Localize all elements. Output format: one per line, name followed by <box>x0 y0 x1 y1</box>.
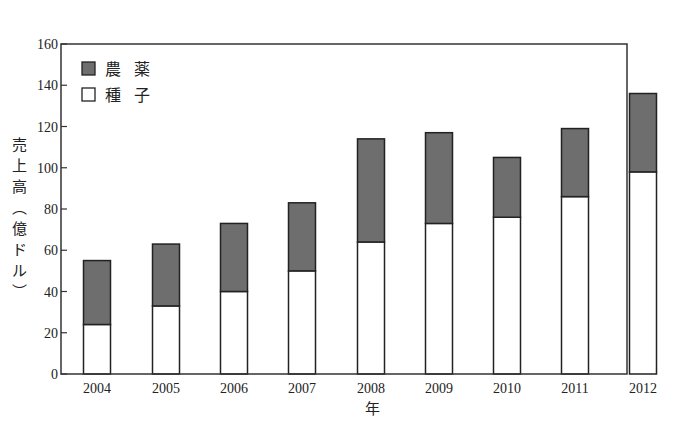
legend: 農 薬種 子 <box>82 60 154 105</box>
bar-2011 <box>562 129 589 374</box>
x-axis-title: 年 <box>365 400 380 418</box>
bar-segment-農薬 <box>221 223 248 291</box>
y-axis-title-char: 売 <box>12 136 27 154</box>
bar-segment-農薬 <box>562 129 589 197</box>
bar-segment-種子 <box>426 223 453 374</box>
x-tick-label: 2012 <box>629 381 657 396</box>
x-tick-label: 2004 <box>83 381 111 396</box>
bar-segment-種子 <box>289 271 316 374</box>
bar-2012 <box>630 94 657 375</box>
y-axis-title-char: ド <box>12 241 27 259</box>
y-axis-title-char: ︵ <box>12 199 27 217</box>
bars-group <box>84 94 657 375</box>
bar-segment-種子 <box>358 242 385 374</box>
y-tick-label: 80 <box>44 202 58 217</box>
x-tick-label: 2007 <box>288 381 316 396</box>
bar-segment-農薬 <box>426 133 453 224</box>
y-axis-title: 売上高︵億ドル︶ <box>12 136 27 301</box>
legend-swatch <box>82 62 95 75</box>
bar-segment-種子 <box>84 325 111 375</box>
x-tick-label: 2008 <box>357 381 385 396</box>
bar-segment-農薬 <box>358 139 385 242</box>
y-axis-title-char: 上 <box>12 157 27 175</box>
y-tick-label: 0 <box>51 367 58 382</box>
y-axis-title-char: ︶ <box>12 283 27 301</box>
y-axis-title-char: 高 <box>12 178 27 196</box>
y-axis-title-char: ル <box>12 262 27 280</box>
bar-2005 <box>153 244 180 374</box>
bar-2006 <box>221 223 248 374</box>
y-tick-label: 140 <box>37 78 58 93</box>
y-tick-label: 100 <box>37 161 58 176</box>
bar-segment-農薬 <box>494 157 521 217</box>
bar-2004 <box>84 261 111 374</box>
x-tick-label: 2006 <box>220 381 248 396</box>
bar-2010 <box>494 157 521 374</box>
bar-segment-農薬 <box>630 94 657 172</box>
bar-2008 <box>358 139 385 374</box>
x-tick-label: 2011 <box>561 381 588 396</box>
bar-segment-農薬 <box>84 261 111 325</box>
y-tick-label: 120 <box>37 120 58 135</box>
stacked-bar-chart: 020406080100120140160 200420052006200720… <box>0 0 688 428</box>
y-tick-label: 160 <box>37 37 58 52</box>
bar-segment-種子 <box>221 292 248 375</box>
bar-segment-種子 <box>630 172 657 374</box>
y-axis: 020406080100120140160 <box>37 37 67 382</box>
x-tick-label: 2009 <box>425 381 453 396</box>
bar-segment-農薬 <box>153 244 180 306</box>
bar-segment-農薬 <box>289 203 316 271</box>
y-tick-label: 60 <box>44 243 58 258</box>
legend-swatch <box>82 88 95 101</box>
bar-segment-種子 <box>494 217 521 374</box>
y-tick-label: 20 <box>44 326 58 341</box>
legend-label: 農 薬 <box>105 60 154 79</box>
bar-2009 <box>426 133 453 374</box>
bar-2007 <box>289 203 316 374</box>
bar-segment-種子 <box>562 197 589 374</box>
x-tick-label: 2005 <box>152 381 180 396</box>
x-axis: 200420052006200720082009201020112012 <box>83 381 657 396</box>
legend-label: 種 子 <box>105 86 154 105</box>
x-tick-label: 2010 <box>493 381 521 396</box>
bar-segment-種子 <box>153 306 180 374</box>
y-axis-title-char: 億 <box>12 220 27 238</box>
y-tick-label: 40 <box>44 285 58 300</box>
